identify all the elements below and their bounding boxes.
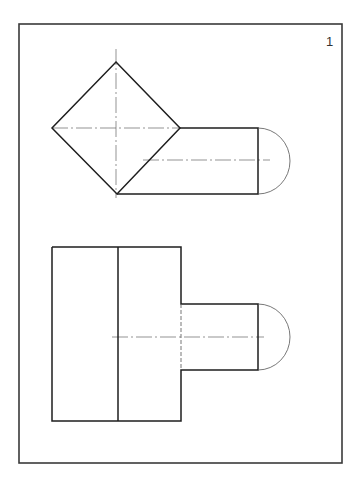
top-view bbox=[52, 49, 290, 198]
top-view-semicircle-arc bbox=[258, 128, 290, 194]
front-view-outline bbox=[52, 247, 258, 421]
top-view-rectangle-outline bbox=[117, 128, 258, 194]
sheet-number-label: 1 bbox=[326, 34, 333, 49]
front-view bbox=[52, 247, 290, 421]
technical-drawing bbox=[0, 0, 362, 486]
